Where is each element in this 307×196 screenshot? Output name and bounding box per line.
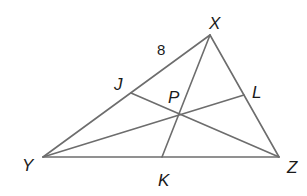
point-label-z: Z: [286, 158, 298, 177]
side-XZ: [210, 35, 279, 157]
point-label-l: L: [252, 83, 261, 102]
side-XY: [43, 35, 210, 157]
point-label-x: X: [208, 14, 221, 33]
point-label-j: J: [113, 75, 123, 94]
point-label-y: Y: [22, 156, 35, 175]
point-label-p: P: [168, 88, 180, 107]
length-label-xj: 8: [157, 41, 165, 58]
point-label-k: K: [158, 171, 170, 190]
cevian-ZJ: [131, 93, 279, 157]
cevian-YL: [43, 95, 244, 157]
labels-group: XYZJLKP8: [22, 14, 298, 190]
triangle-diagram: XYZJLKP8: [0, 0, 307, 196]
